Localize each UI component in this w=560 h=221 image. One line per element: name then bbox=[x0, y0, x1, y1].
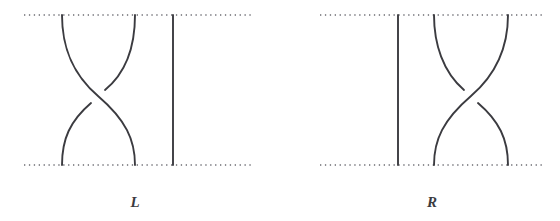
strand-under-lower-right-panel bbox=[478, 103, 508, 165]
panel-label-R: R bbox=[426, 194, 437, 210]
strand-over-left-panel bbox=[62, 15, 135, 165]
strand-under-upper-left-panel bbox=[105, 15, 135, 90]
strand-under-lower-left-panel bbox=[62, 103, 91, 165]
panel-label-L: L bbox=[129, 194, 139, 210]
strand-under-upper-right-panel bbox=[434, 15, 464, 90]
strand-over-right-panel bbox=[434, 15, 508, 165]
braid-diagram-svg: L R bbox=[0, 0, 560, 221]
panel-left: L bbox=[24, 15, 252, 210]
panel-right: R bbox=[320, 15, 544, 210]
figure-root: L R bbox=[0, 0, 560, 221]
